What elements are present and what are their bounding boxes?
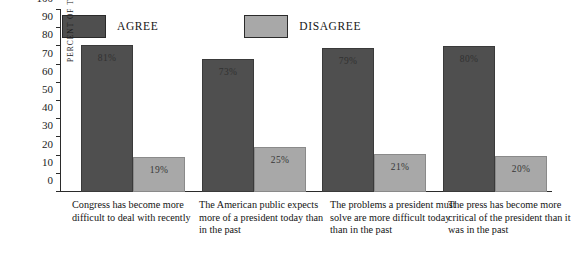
y-tick-40 — [56, 118, 61, 119]
y-tick-100 — [56, 9, 61, 10]
bar-value-agree-1: 81% — [82, 53, 132, 63]
bar-value-disagree-3: 21% — [375, 162, 425, 172]
y-tick-label-80: 80 — [42, 28, 53, 40]
bar-agree-4[interactable]: 80% — [443, 46, 495, 192]
y-tick-30 — [56, 136, 61, 137]
y-tick-80 — [56, 45, 61, 46]
bar-value-agree-3: 79% — [323, 56, 373, 66]
y-tick-90 — [56, 27, 61, 28]
y-tick-label-20: 20 — [42, 138, 53, 150]
category-label-1: Congress has become more difficult to de… — [72, 199, 194, 224]
y-tick-label-10: 10 — [42, 156, 53, 168]
y-tick-label-0: 0 — [48, 174, 54, 186]
bar-value-agree-2: 73% — [203, 67, 253, 77]
category-label-3: The problems a president must solve are … — [330, 199, 456, 237]
bar-group-2: 73% 25% — [202, 59, 306, 192]
category-label-2: The American public expects more of a pr… — [199, 199, 327, 237]
bar-agree-3[interactable]: 79% — [322, 48, 374, 192]
bar-group-4: 80% 20% — [443, 46, 547, 192]
bar-group-1: 81% 19% — [81, 45, 185, 192]
bar-group-3: 79% 21% — [322, 48, 426, 192]
y-tick-label-60: 60 — [42, 65, 53, 77]
y-tick-label-70: 70 — [42, 47, 53, 59]
y-tick-0 — [56, 191, 61, 192]
bar-value-disagree-2: 25% — [255, 155, 305, 165]
category-label-4: The press has become more critical of th… — [448, 199, 574, 237]
y-tick-70 — [56, 64, 61, 65]
bar-value-agree-4: 80% — [444, 54, 494, 64]
y-tick-60 — [56, 82, 61, 83]
bar-chart-plot-area: PERCENT OF TOTAL 0 10 20 30 40 50 60 70 … — [60, 10, 552, 192]
bar-value-disagree-4: 20% — [496, 164, 546, 174]
y-tick-label-100: 100 — [37, 0, 54, 4]
y-tick-50 — [56, 100, 61, 101]
category-captions: Congress has become more difficult to de… — [0, 199, 574, 271]
bar-agree-2[interactable]: 73% — [202, 59, 254, 192]
y-tick-label-30: 30 — [42, 119, 53, 131]
bar-disagree-1[interactable]: 19% — [133, 157, 185, 192]
y-tick-label-50: 50 — [42, 83, 53, 95]
bar-disagree-3[interactable]: 21% — [374, 154, 426, 192]
y-tick-label-90: 90 — [42, 10, 53, 22]
y-axis-title: PERCENT OF TOTAL — [66, 0, 75, 62]
bar-disagree-2[interactable]: 25% — [254, 147, 306, 193]
y-tick-label-40: 40 — [42, 101, 53, 113]
bar-disagree-4[interactable]: 20% — [495, 156, 547, 192]
y-axis-line — [60, 10, 61, 192]
bar-agree-1[interactable]: 81% — [81, 45, 133, 192]
bar-value-disagree-1: 19% — [134, 165, 184, 175]
y-tick-20 — [56, 155, 61, 156]
y-tick-10 — [56, 173, 61, 174]
